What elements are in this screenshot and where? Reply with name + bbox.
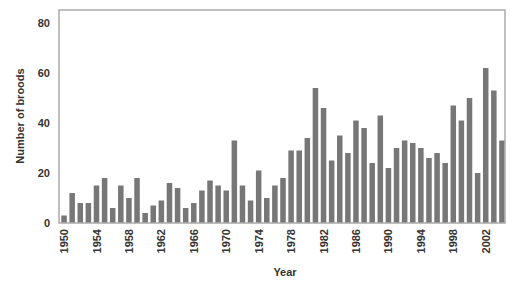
x-tick-label: 1978 bbox=[285, 229, 297, 253]
bar-2001 bbox=[475, 173, 481, 223]
bar-1954 bbox=[94, 186, 100, 224]
bar-1995 bbox=[426, 158, 432, 223]
bar-1968 bbox=[207, 181, 213, 224]
y-tick-label: 80 bbox=[38, 17, 50, 29]
bar-1962 bbox=[159, 201, 165, 224]
x-tick-label: 1954 bbox=[91, 228, 103, 253]
bar-1958 bbox=[126, 198, 132, 223]
bar-1972 bbox=[240, 186, 246, 224]
bar-1980 bbox=[305, 138, 311, 223]
bar-1989 bbox=[378, 116, 384, 224]
bar-1988 bbox=[369, 163, 375, 223]
bar-1971 bbox=[232, 141, 238, 224]
x-tick-label: 1962 bbox=[155, 229, 167, 253]
bar-1982 bbox=[321, 108, 327, 223]
y-tick-label: 40 bbox=[38, 117, 50, 129]
bar-1993 bbox=[410, 143, 416, 223]
bar-1961 bbox=[151, 206, 157, 224]
bar-1965 bbox=[183, 208, 189, 223]
bar-1960 bbox=[142, 213, 148, 223]
x-axis-title: Year bbox=[273, 266, 297, 278]
bar-1974 bbox=[256, 171, 262, 224]
bar-1964 bbox=[175, 188, 181, 223]
bar-1997 bbox=[442, 163, 448, 223]
bar-1967 bbox=[199, 191, 205, 224]
bars-group bbox=[61, 68, 504, 223]
y-tick-label: 60 bbox=[38, 67, 50, 79]
bar-2003 bbox=[491, 91, 497, 224]
x-tick-label: 1966 bbox=[188, 229, 200, 253]
x-tick-label: 1990 bbox=[382, 229, 394, 253]
bar-1985 bbox=[345, 153, 351, 223]
x-axis-ticks: 1950195419581962196619701974197819821986… bbox=[58, 228, 492, 253]
bar-1950 bbox=[61, 216, 67, 224]
bar-1994 bbox=[418, 148, 424, 223]
bar-1955 bbox=[102, 178, 108, 223]
bar-1983 bbox=[329, 161, 335, 224]
bar-2004 bbox=[499, 141, 505, 224]
x-tick-label: 1974 bbox=[253, 228, 265, 253]
bar-1957 bbox=[118, 186, 124, 224]
bar-1970 bbox=[223, 191, 229, 224]
x-tick-label: 1950 bbox=[58, 229, 70, 253]
x-tick-label: 1986 bbox=[350, 229, 362, 253]
x-tick-label: 1970 bbox=[220, 229, 232, 253]
bar-1981 bbox=[313, 88, 319, 223]
bar-1998 bbox=[451, 106, 457, 224]
y-axis-ticks: 020406080 bbox=[38, 17, 50, 229]
bar-1977 bbox=[280, 178, 286, 223]
x-tick-label: 2002 bbox=[480, 229, 492, 253]
bar-1976 bbox=[272, 186, 278, 224]
bar-1973 bbox=[248, 201, 254, 224]
x-tick-label: 1958 bbox=[123, 229, 135, 253]
x-tick-label: 1982 bbox=[318, 229, 330, 253]
bar-1990 bbox=[386, 168, 392, 223]
bar-1986 bbox=[353, 121, 359, 224]
y-tick-label: 0 bbox=[44, 217, 50, 229]
bar-1979 bbox=[296, 151, 302, 224]
bar-1951 bbox=[69, 193, 75, 223]
bar-1969 bbox=[215, 186, 221, 224]
bar-1956 bbox=[110, 208, 116, 223]
bar-1975 bbox=[264, 198, 270, 223]
bar-1996 bbox=[434, 153, 440, 223]
bar-1959 bbox=[134, 178, 140, 223]
bar-1952 bbox=[78, 203, 84, 223]
x-tick-label: 1998 bbox=[447, 229, 459, 253]
bar-2002 bbox=[483, 68, 489, 223]
y-axis-title: Number of broods bbox=[14, 68, 26, 163]
bar-1987 bbox=[361, 128, 367, 223]
x-tick-label: 1994 bbox=[415, 228, 427, 253]
bar-1991 bbox=[394, 148, 400, 223]
bar-1953 bbox=[86, 203, 92, 223]
bar-1984 bbox=[337, 136, 343, 224]
y-tick-label: 20 bbox=[38, 167, 50, 179]
bar-1992 bbox=[402, 141, 408, 224]
bar-1999 bbox=[459, 121, 465, 224]
bar-chart: 020406080 195019541958196219661970197419… bbox=[0, 0, 512, 290]
bar-2000 bbox=[467, 98, 473, 223]
bar-1966 bbox=[191, 203, 197, 223]
bar-1963 bbox=[167, 183, 173, 223]
bar-1978 bbox=[288, 151, 294, 224]
